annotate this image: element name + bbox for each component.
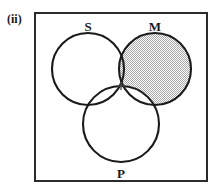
diagram-frame [35, 13, 207, 181]
venn-figure: (ii) [0, 0, 222, 195]
label-circle-p: P [117, 166, 125, 181]
venn-diagram-svg: S M P [0, 0, 222, 195]
label-circle-s: S [84, 19, 91, 34]
label-circle-m: M [149, 19, 161, 34]
